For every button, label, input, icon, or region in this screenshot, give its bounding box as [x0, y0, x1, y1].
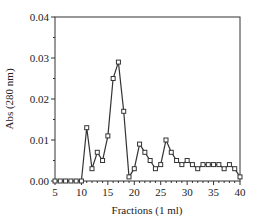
data-point-marker [111, 77, 115, 81]
data-point-marker [132, 167, 136, 171]
data-point-marker [64, 179, 68, 183]
data-point-marker [138, 142, 142, 146]
x-tick-label: 15 [102, 186, 114, 198]
data-point-marker [238, 175, 242, 179]
y-tick-label: 0.03 [30, 52, 50, 64]
data-point-marker [85, 126, 89, 130]
data-point-marker [153, 167, 157, 171]
data-point-marker [180, 163, 184, 167]
data-point-marker [53, 179, 57, 183]
x-tick-label: 5 [52, 186, 58, 198]
data-point-marker [169, 150, 173, 154]
y-axis-label: Abs (280 nm) [3, 68, 16, 129]
data-point-marker [74, 179, 78, 183]
data-point-marker [122, 109, 126, 113]
x-tick-label: 10 [76, 186, 88, 198]
y-tick-label: 0.01 [30, 134, 49, 146]
x-tick-label: 35 [208, 186, 220, 198]
data-point-marker [116, 60, 120, 64]
data-point-marker [190, 163, 194, 167]
data-point-marker [196, 167, 200, 171]
data-point-marker [127, 175, 131, 179]
y-tick-label: 0.02 [30, 93, 49, 105]
data-point-marker [101, 159, 105, 163]
x-tick-label: 40 [235, 186, 247, 198]
data-point-marker [79, 179, 83, 183]
data-point-marker [106, 134, 110, 138]
data-point-marker [143, 150, 147, 154]
data-point-marker [212, 163, 216, 167]
data-point-marker [206, 163, 210, 167]
x-axis-label: Fractions (1 ml) [112, 204, 183, 217]
y-tick-label: 0.04 [30, 11, 50, 23]
data-point-marker [58, 179, 62, 183]
data-point-marker [227, 163, 231, 167]
data-point-marker [175, 159, 179, 163]
data-point-marker [159, 163, 163, 167]
y-tick-label: 0.00 [30, 175, 50, 187]
data-point-marker [95, 150, 99, 154]
x-tick-label: 25 [155, 186, 167, 198]
data-point-marker [90, 167, 94, 171]
data-point-marker [185, 159, 189, 163]
y-axis-ticks: 0.000.010.020.030.04 [30, 11, 55, 187]
x-tick-label: 20 [129, 186, 141, 198]
data-point-marker [201, 163, 205, 167]
data-point-marker [217, 163, 221, 167]
data-point-marker [148, 159, 152, 163]
data-series [53, 60, 242, 183]
x-tick-label: 30 [182, 186, 194, 198]
chart: 0.000.010.020.030.04 510152025303540 Fra… [0, 0, 258, 224]
data-point-marker [222, 167, 226, 171]
data-point-marker [233, 167, 237, 171]
data-point-marker [69, 179, 73, 183]
x-axis-ticks: 510152025303540 [52, 181, 246, 198]
data-point-marker [164, 138, 168, 142]
